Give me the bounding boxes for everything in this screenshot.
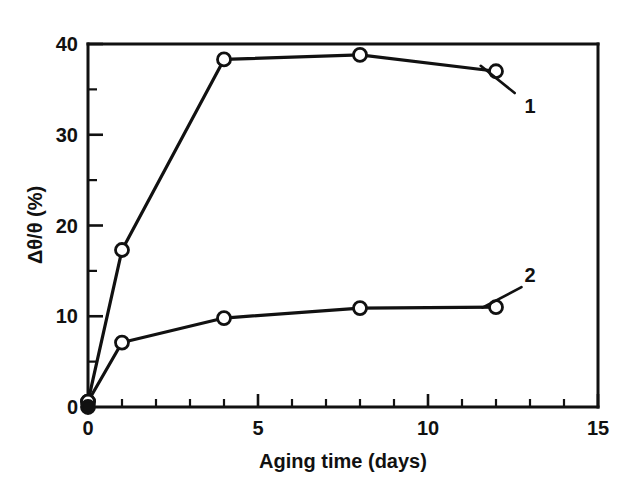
tick-marks-group xyxy=(88,44,598,407)
data-series-group xyxy=(82,48,503,413)
x-tick-label: 5 xyxy=(252,417,263,439)
series-line xyxy=(88,307,496,401)
x-tick-label: 15 xyxy=(587,417,609,439)
x-axis-title: Aging time (days) xyxy=(259,450,427,472)
y-tick-label: 0 xyxy=(67,396,78,418)
y-tick-label: 40 xyxy=(56,33,78,55)
y-tick-label: 20 xyxy=(56,215,78,237)
y-tick-label: 10 xyxy=(56,305,78,327)
series-1 xyxy=(82,48,503,408)
series-2 xyxy=(82,301,503,408)
data-point-marker xyxy=(116,336,129,349)
axes-frame xyxy=(88,44,598,407)
chart-canvas: 051015010203040 12 Aging time (days) Δθ/… xyxy=(0,0,633,478)
data-point-marker xyxy=(218,312,231,325)
series-1-callout-text: 1 xyxy=(524,95,535,117)
annotations-group: 12 xyxy=(481,66,536,308)
x-tick-label: 10 xyxy=(417,417,439,439)
data-point-marker xyxy=(218,53,231,66)
data-point-marker xyxy=(354,48,367,61)
data-point-marker xyxy=(116,244,129,257)
y-axis-title: Δθ/θ (%) xyxy=(24,186,46,264)
figure-container: 051015010203040 12 Aging time (days) Δθ/… xyxy=(0,0,633,478)
origin-filled-dot xyxy=(82,401,95,414)
series-line xyxy=(88,55,496,402)
y-tick-label: 30 xyxy=(56,124,78,146)
data-point-marker xyxy=(354,302,367,315)
x-tick-label: 0 xyxy=(82,417,93,439)
series-2-callout-text: 2 xyxy=(524,264,535,286)
